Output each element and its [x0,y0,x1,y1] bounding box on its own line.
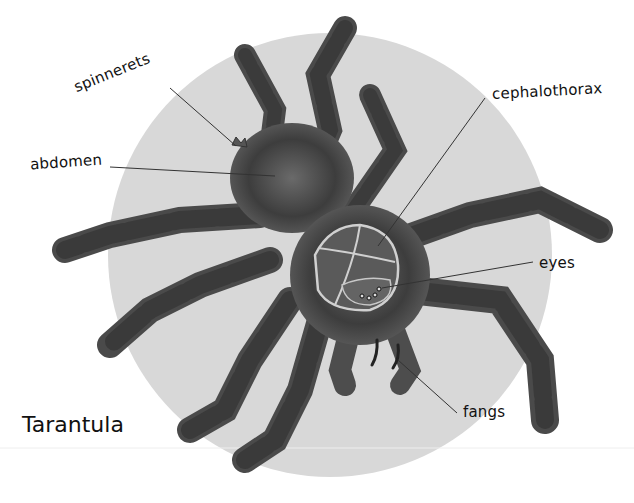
carapace [315,225,398,310]
label-fangs: fangs [463,403,505,421]
label-eyes: eyes [539,254,575,272]
diagram-title: Tarantula [22,412,124,437]
